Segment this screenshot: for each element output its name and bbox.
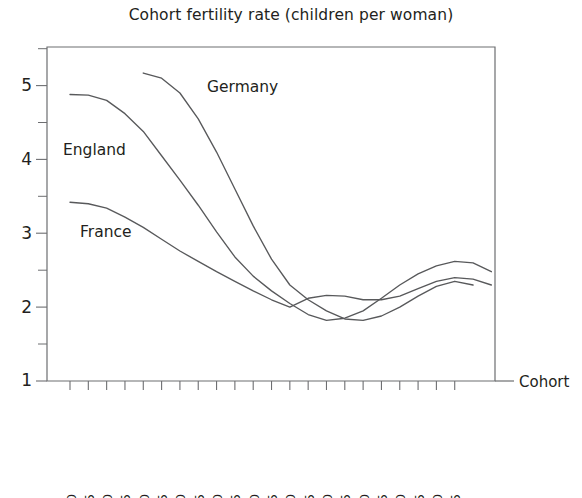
x-tick-label: 1896-1905 (302, 494, 317, 498)
x-tick-label: 1881-1890 (247, 494, 262, 498)
x-tick-label: 1916-1925 (375, 494, 390, 498)
x-axis-ticks-and-labels: 1831-18401836-18451841-18501846-18551851… (64, 381, 464, 498)
series-lines (70, 73, 491, 320)
x-tick-label: 1886-1995 (265, 494, 280, 498)
series-label-germany: Germany (207, 78, 278, 96)
y-axis-major-ticks (36, 86, 47, 381)
x-tick-label: 1841-1850 (100, 494, 115, 498)
y-tick-label: 4 (21, 149, 32, 169)
x-tick-label: 1851-1860 (137, 494, 152, 498)
y-tick-label: 3 (21, 223, 32, 243)
x-tick-label: 1921-1930 (393, 494, 408, 498)
x-tick-label: 1906-1915 (338, 494, 353, 498)
x-tick-label: 1871-1880 (210, 494, 225, 498)
x-tick-label: 1891-1900 (283, 494, 298, 498)
cohort-fertility-chart: Cohort fertility rate (children per woma… (0, 0, 582, 498)
x-tick-label: 1856-1865 (155, 494, 170, 498)
x-tick-label: 1861-1870 (173, 494, 188, 498)
y-axis-labels: 5 4 3 2 1 (21, 75, 32, 390)
x-axis-label: Cohort (519, 373, 570, 391)
x-tick-label: 1866-1875 (192, 494, 207, 498)
plot-area: 5 4 3 2 1 1831-18401836-18451841-1850184… (0, 0, 582, 498)
x-tick-label: 1876-1885 (228, 494, 243, 498)
x-tick-label: 1901-1910 (320, 494, 335, 498)
series-label-england: England (63, 141, 126, 159)
plot-frame (47, 47, 495, 381)
x-tick-label: 1846-1855 (118, 494, 133, 498)
x-tick-label: 1831-1840 (64, 494, 79, 498)
x-tick-label: 1911-1920 (357, 494, 372, 498)
y-tick-label: 2 (21, 297, 32, 317)
y-tick-label: 1 (21, 370, 32, 390)
x-tick-label: 1936-1945 (448, 494, 463, 498)
series-label-france: France (80, 223, 132, 241)
y-tick-label: 5 (21, 75, 32, 95)
x-tick-label: 1926-1935 (412, 494, 427, 498)
x-tick-label: 1836-1845 (82, 494, 97, 498)
series-line-england (70, 94, 491, 320)
y-axis-minor-ticks (38, 49, 47, 344)
x-tick-label: 1931-1940 (430, 494, 445, 498)
